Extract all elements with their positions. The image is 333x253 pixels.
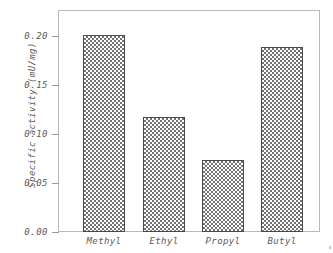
y-axis-title: Specific activity (mU/mg): [27, 20, 37, 210]
y-axis-tick-2: [52, 134, 59, 135]
x-axis-label-butyl: Butyl: [252, 236, 312, 246]
y-axis-tick-4: [52, 36, 59, 37]
y-axis-tick-3: [52, 85, 59, 86]
x-axis-label-ethyl: Ethyl: [134, 236, 194, 246]
y-axis-tick-label-0: 0.00: [8, 227, 48, 237]
y-axis-tick-0: [52, 232, 59, 233]
bar-chart-figure: 0.00 0.05 0.10 0.15 0.20 Specific activi…: [0, 0, 333, 253]
x-axis-label-methyl: Methyl: [74, 236, 134, 246]
bar-propyl: [202, 160, 244, 232]
bar-methyl: [83, 35, 125, 232]
scan-artifact-speck: [329, 246, 331, 249]
bar-butyl: [261, 47, 303, 232]
bar-ethyl: [143, 117, 185, 232]
y-axis-tick-1: [52, 183, 59, 184]
x-axis-label-propyl: Propyl: [193, 236, 253, 246]
